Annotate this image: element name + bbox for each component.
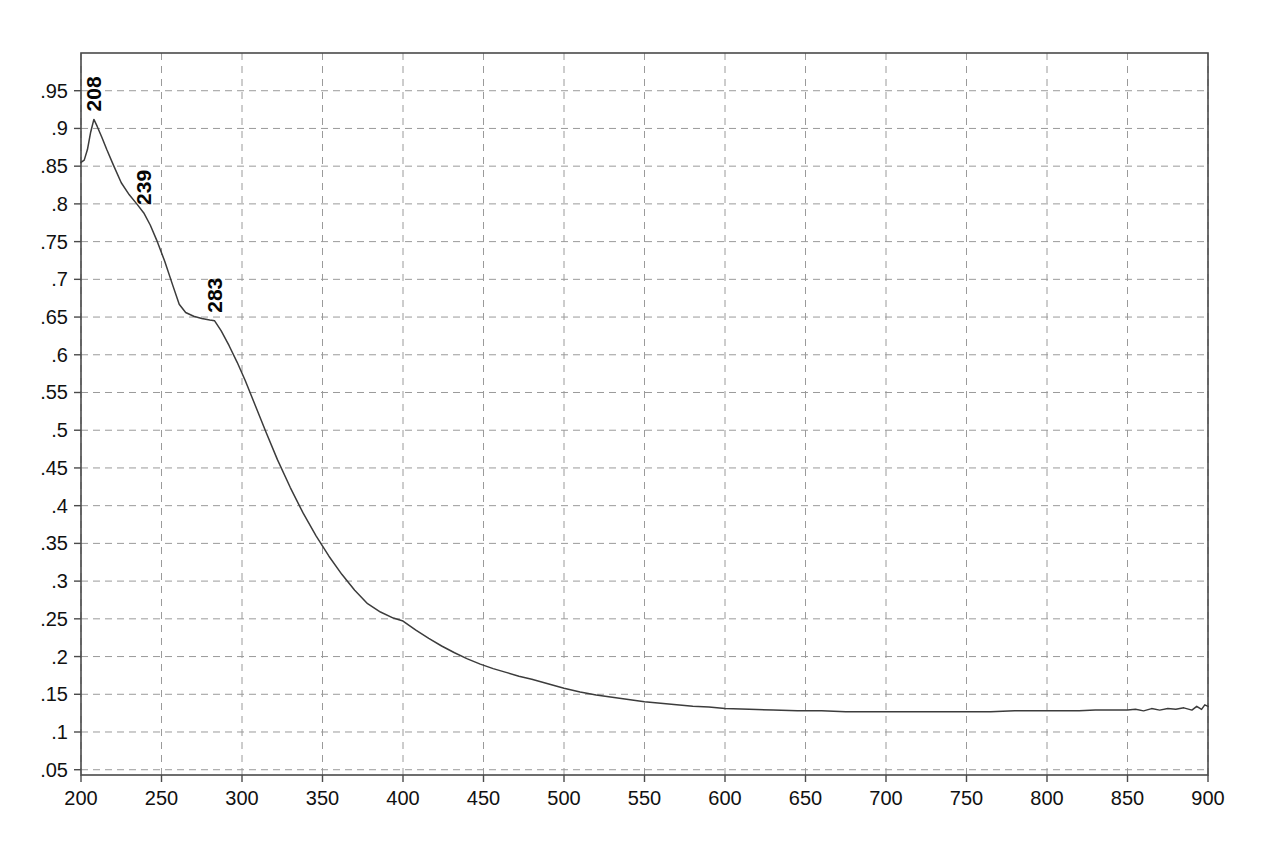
y-tick-label: .85	[40, 155, 68, 177]
peak-annotation: 239	[132, 170, 155, 205]
y-tick-label: .4	[51, 495, 68, 517]
x-tick-label: 300	[225, 787, 258, 809]
x-tick-label: 800	[1030, 787, 1063, 809]
peak-annotation: 283	[203, 278, 226, 313]
y-tick-label: .45	[40, 457, 68, 479]
y-tick-label: .75	[40, 231, 68, 253]
x-tick-label: 600	[708, 787, 741, 809]
x-tick-label: 900	[1191, 787, 1224, 809]
peak-annotation-label: 208	[82, 76, 105, 111]
y-tick-label: .55	[40, 381, 68, 403]
y-tick-label: .25	[40, 608, 68, 630]
x-tick-label: 650	[789, 787, 822, 809]
x-axis-tick-labels: 2002503003504004505005506006507007508008…	[64, 787, 1224, 809]
x-tick-label: 550	[628, 787, 661, 809]
y-tick-label: .5	[51, 419, 68, 441]
peak-annotation-label: 239	[132, 170, 155, 205]
spectrum-chart-page: .05.1.15.2.25.3.35.4.45.5.55.6.65.7.75.8…	[0, 0, 1269, 850]
x-tick-label: 500	[547, 787, 580, 809]
x-tick-label: 700	[869, 787, 902, 809]
y-tick-label: .35	[40, 532, 68, 554]
y-tick-label: .2	[51, 646, 68, 668]
x-tick-label: 350	[306, 787, 339, 809]
x-tick-label: 750	[950, 787, 983, 809]
x-tick-label: 200	[64, 787, 97, 809]
y-tick-label: .05	[40, 759, 68, 781]
spectrum-chart-svg: .05.1.15.2.25.3.35.4.45.5.55.6.65.7.75.8…	[0, 0, 1269, 850]
y-tick-label: .65	[40, 306, 68, 328]
y-tick-label: .95	[40, 80, 68, 102]
y-tick-label: .6	[51, 344, 68, 366]
y-tick-label: .15	[40, 683, 68, 705]
x-tick-label: 850	[1111, 787, 1144, 809]
plot-background	[0, 0, 1269, 850]
x-tick-label: 250	[145, 787, 178, 809]
peak-annotation: 208	[82, 76, 105, 111]
y-tick-label: .1	[51, 721, 68, 743]
peak-annotation-label: 283	[203, 278, 226, 313]
x-tick-label: 400	[386, 787, 419, 809]
y-tick-label: .8	[51, 193, 68, 215]
y-tick-label: .3	[51, 570, 68, 592]
x-tick-label: 450	[467, 787, 500, 809]
y-tick-label: .9	[51, 117, 68, 139]
y-tick-label: .7	[51, 268, 68, 290]
